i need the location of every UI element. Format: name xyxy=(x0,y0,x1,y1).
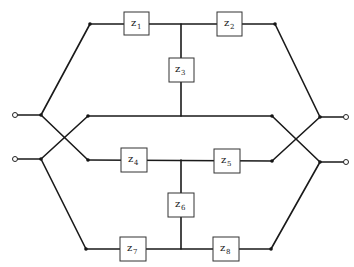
svg-text:z: z xyxy=(175,63,180,74)
impedance-z6: z 6 xyxy=(168,193,194,217)
svg-text:z: z xyxy=(175,198,180,209)
svg-text:z: z xyxy=(224,17,229,28)
impedance-z5: z 5 xyxy=(214,149,240,173)
svg-text:z: z xyxy=(221,154,226,165)
impedance-z3: z 3 xyxy=(169,58,194,82)
svg-text:8: 8 xyxy=(226,248,230,256)
impedance-z4: z 4 xyxy=(121,148,147,172)
left-diagonals xyxy=(41,22,92,251)
svg-text:7: 7 xyxy=(133,248,137,256)
right-terminals xyxy=(318,115,348,165)
terminal-left-top xyxy=(13,113,18,118)
svg-text:z: z xyxy=(128,153,133,164)
right-diagonals xyxy=(269,22,320,251)
svg-text:5: 5 xyxy=(227,160,231,168)
svg-text:4: 4 xyxy=(134,159,139,167)
svg-text:z: z xyxy=(220,242,225,253)
left-terminals xyxy=(13,113,43,162)
terminal-right-bottom xyxy=(344,160,349,165)
impedance-z8: z 8 xyxy=(213,237,239,261)
svg-text:6: 6 xyxy=(181,204,186,212)
svg-text:z: z xyxy=(127,242,132,253)
svg-text:z: z xyxy=(131,17,136,28)
impedance-z2: z 2 xyxy=(217,12,242,36)
terminal-left-bottom xyxy=(13,157,18,162)
impedance-z1: z 1 xyxy=(124,12,149,35)
terminal-right-top xyxy=(344,115,349,120)
svg-text:1: 1 xyxy=(137,23,141,31)
svg-text:3: 3 xyxy=(181,69,185,77)
impedance-z7: z 7 xyxy=(120,237,146,261)
circuit-diagram: z 1 z 2 z 3 z 4 z 5 z 6 z 7 z 8 xyxy=(0,0,354,267)
svg-text:2: 2 xyxy=(230,23,234,31)
